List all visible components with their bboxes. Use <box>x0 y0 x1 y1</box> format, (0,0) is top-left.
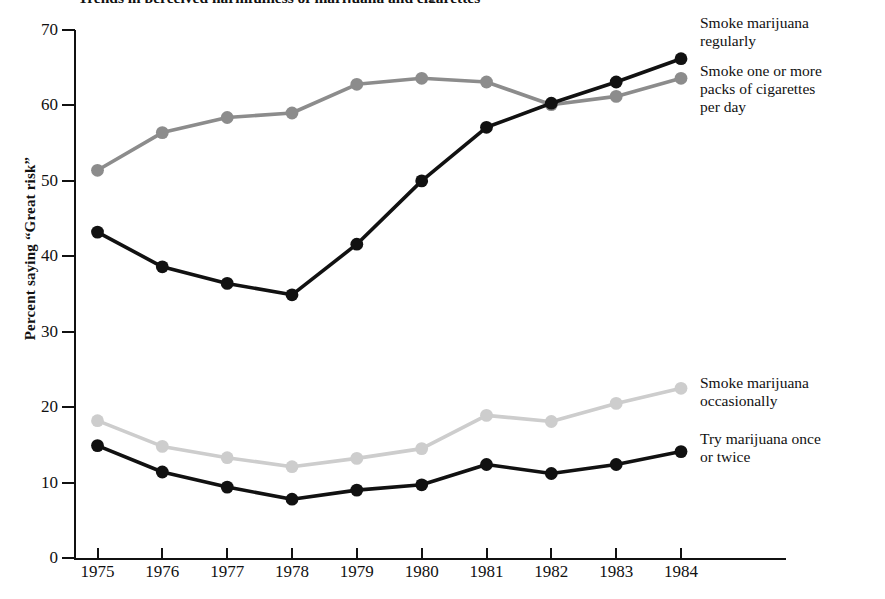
data-point-1976 <box>156 440 169 453</box>
data-point-1976 <box>156 466 169 479</box>
series-line <box>98 59 682 295</box>
legend-line: Smoke one or more <box>700 62 882 80</box>
data-point-1976 <box>156 260 169 273</box>
series-line <box>98 388 682 466</box>
legend-line: Smoke marijuana <box>700 14 882 32</box>
legend-line: or twice <box>700 448 882 466</box>
data-point-1977 <box>221 277 234 290</box>
legend-line: packs of cigarettes <box>700 80 882 98</box>
legend-line: regularly <box>700 32 882 50</box>
legend-line: occasionally <box>700 392 882 410</box>
data-point-1976 <box>156 126 169 139</box>
data-point-1978 <box>286 493 299 506</box>
data-point-1975 <box>91 164 104 177</box>
data-point-1981 <box>480 76 493 89</box>
data-point-1979 <box>350 238 363 251</box>
legend-line: Try marijuana once <box>700 430 882 448</box>
data-point-1979 <box>350 78 363 91</box>
data-point-1981 <box>480 409 493 422</box>
series-smoke-marijuana-occasionally <box>91 382 687 473</box>
data-point-1983 <box>610 76 623 89</box>
data-point-1975 <box>91 414 104 427</box>
data-point-1982 <box>545 97 558 110</box>
data-point-1977 <box>221 481 234 494</box>
data-point-1979 <box>350 484 363 497</box>
data-point-1977 <box>221 451 234 464</box>
data-point-1982 <box>545 415 558 428</box>
data-point-1984 <box>675 72 688 85</box>
data-point-1980 <box>415 478 428 491</box>
data-point-1980 <box>415 175 428 188</box>
data-point-1978 <box>286 288 299 301</box>
data-point-1978 <box>286 107 299 120</box>
data-point-1984 <box>675 445 688 458</box>
data-point-1984 <box>675 382 688 395</box>
data-point-1981 <box>480 458 493 471</box>
legend-label-try-marijuana: Try marijuana onceor twice <box>700 430 882 466</box>
series-smoke-marijuana-regularly <box>91 52 687 301</box>
legend-label-smoke-marijuana-regularly: Smoke marijuanaregularly <box>700 14 882 50</box>
data-point-1983 <box>610 90 623 103</box>
legend-line: per day <box>700 98 882 116</box>
data-point-1977 <box>221 111 234 124</box>
data-point-1980 <box>415 442 428 455</box>
legend-line: Smoke marijuana <box>700 374 882 392</box>
legend-label-smoke-cigarettes: Smoke one or morepacks of cigarettesper … <box>700 62 882 116</box>
data-point-1984 <box>675 52 688 65</box>
data-point-1981 <box>480 121 493 134</box>
line-chart: Trends in perceived harmfulness of marij… <box>0 0 885 599</box>
legend-label-smoke-marijuana-occasionally: Smoke marijuanaoccasionally <box>700 374 882 410</box>
data-point-1975 <box>91 226 104 239</box>
data-point-1979 <box>350 452 363 465</box>
series-line <box>98 78 682 170</box>
data-point-1983 <box>610 397 623 410</box>
data-point-1983 <box>610 458 623 471</box>
data-point-1975 <box>91 439 104 452</box>
data-point-1982 <box>545 467 558 480</box>
data-point-1980 <box>415 72 428 85</box>
data-point-1978 <box>286 460 299 473</box>
